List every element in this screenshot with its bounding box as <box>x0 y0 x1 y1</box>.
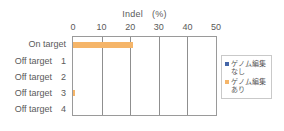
indel-bar-chart: Indel (%) 01020304050 On targetOff targe… <box>0 0 284 131</box>
y-category-label-3: Off target 3 <box>15 86 66 99</box>
y-category-label-1: Off target 1 <box>15 54 66 67</box>
gridline-x-20 <box>130 37 131 115</box>
x-axis-tick-labels: 01020304050 <box>72 22 217 34</box>
legend-label-0: ゲノム編集なし <box>231 60 266 76</box>
y-category-label-2: Off target 2 <box>15 70 66 83</box>
plot-area <box>72 36 217 116</box>
x-tick-label-40: 40 <box>182 22 192 32</box>
y-category-label-0: On target <box>28 39 66 49</box>
chart-title: Indel (%) <box>72 7 217 20</box>
bar-1-3 <box>73 90 75 96</box>
legend-label-1: ゲノム編集あり <box>231 78 266 94</box>
legend-swatch-icon-0 <box>225 62 229 66</box>
bar-1-0 <box>73 42 133 48</box>
gridline-x-30 <box>159 37 160 115</box>
x-tick-label-20: 20 <box>125 22 135 32</box>
x-tick-label-50: 50 <box>211 22 221 32</box>
x-tick-label-0: 0 <box>70 22 75 32</box>
legend-item-0[interactable]: ゲノム編集なし <box>225 60 268 76</box>
x-tick-label-30: 30 <box>154 22 164 32</box>
chart-legend: ゲノム編集なしゲノム編集あり <box>221 55 272 99</box>
legend-item-1[interactable]: ゲノム編集あり <box>225 78 268 94</box>
x-tick-label-10: 10 <box>97 22 107 32</box>
y-axis-category-labels: On targetOff target 1Off target 2Off tar… <box>0 36 69 116</box>
gridline-x-40 <box>187 37 188 115</box>
y-category-label-4: Off target 4 <box>15 102 66 115</box>
legend-swatch-icon-1 <box>225 80 229 84</box>
gridline-x-10 <box>102 37 103 115</box>
